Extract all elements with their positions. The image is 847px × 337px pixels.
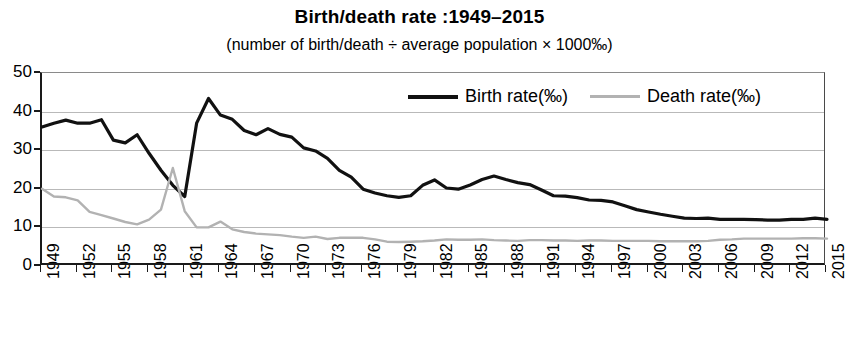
x-axis-tick (789, 265, 790, 272)
x-axis-tick (397, 265, 398, 272)
x-axis-tick (647, 265, 648, 272)
legend-item-birth: Birth rate(‰) (408, 86, 568, 107)
chart-subtitle: (number of birth/death ÷ average populat… (0, 36, 839, 54)
x-axis-tick (825, 265, 826, 272)
y-axis-tick-label: 50 (0, 63, 32, 80)
x-axis-tick (218, 265, 219, 272)
x-axis-tick (504, 265, 505, 272)
x-axis-tick (76, 265, 77, 272)
x-axis-tick (111, 265, 112, 272)
birth-line-swatch-icon (408, 95, 458, 99)
x-axis-tick (575, 265, 576, 272)
legend-item-death: Death rate(‰) (590, 86, 761, 107)
legend-label-birth: Birth rate(‰) (465, 86, 568, 107)
y-axis-tick-label: 20 (0, 179, 32, 196)
x-axis-tick (682, 265, 683, 272)
chart-legend: Birth rate(‰) Death rate(‰) (408, 86, 761, 107)
x-axis-tick (183, 265, 184, 272)
birth-rate-line (42, 98, 827, 220)
y-axis-tick-label: 40 (0, 102, 32, 119)
x-axis-tick (611, 265, 612, 272)
x-axis-tick (325, 265, 326, 272)
chart-title: Birth/death rate :1949–2015 (0, 6, 839, 28)
x-axis-tick (40, 265, 41, 272)
x-axis-tick (540, 265, 541, 272)
x-axis-tick (754, 265, 755, 272)
x-axis-tick (433, 265, 434, 272)
legend-label-death: Death rate(‰) (647, 86, 761, 107)
death-line-swatch-icon (590, 95, 640, 98)
x-axis-tick-label: 2015 (831, 243, 847, 279)
x-axis-tick (468, 265, 469, 272)
y-axis-tick-label: 0 (0, 256, 32, 273)
y-axis-tick-label: 30 (0, 140, 32, 157)
x-axis-tick (254, 265, 255, 272)
y-axis-tick-label: 10 (0, 217, 32, 234)
x-axis-tick (361, 265, 362, 272)
x-axis-tick (718, 265, 719, 272)
x-axis-tick (147, 265, 148, 272)
x-axis-tick (290, 265, 291, 272)
